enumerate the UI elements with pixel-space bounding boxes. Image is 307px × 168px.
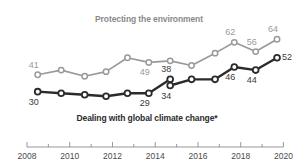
data-point-marker — [35, 89, 41, 95]
data-point-marker — [189, 76, 195, 82]
data-point-marker — [125, 90, 131, 96]
trend-chart: Protecting the environment Dealing with … — [0, 0, 307, 168]
data-point-label: 44 — [247, 76, 257, 85]
x-axis-tick-label: 2014 — [146, 152, 165, 161]
data-point-marker — [58, 90, 64, 96]
series-line — [38, 39, 277, 76]
data-point-label: 30 — [29, 98, 39, 107]
data-point-marker — [82, 74, 87, 79]
data-point-marker — [167, 76, 173, 82]
data-point-label: 34 — [161, 92, 171, 101]
data-point-marker — [232, 40, 237, 45]
chart-plot-area — [0, 0, 307, 168]
data-point-label: 46 — [225, 73, 235, 82]
data-point-label: 38 — [161, 65, 171, 74]
x-axis-tick-label: 2018 — [231, 152, 250, 161]
data-point-marker — [82, 92, 88, 98]
data-point-marker — [125, 55, 130, 60]
series-label-climate: Dealing with global climate change* — [72, 113, 222, 123]
data-point-marker — [146, 60, 151, 65]
data-point-marker — [189, 63, 194, 68]
data-point-marker — [103, 93, 109, 99]
x-axis-tick-label: 2010 — [60, 152, 79, 161]
x-axis — [27, 142, 283, 147]
data-point-label: 49 — [140, 68, 150, 77]
data-point-label: 56 — [247, 38, 257, 47]
data-point-marker — [274, 37, 279, 42]
series-lines — [38, 39, 277, 96]
data-point-marker — [167, 58, 172, 63]
data-point-marker — [146, 90, 152, 96]
data-point-label: 62 — [225, 28, 235, 37]
x-axis-tick-label: 2016 — [188, 152, 207, 161]
data-point-label: 52 — [282, 53, 292, 62]
data-point-marker — [103, 69, 108, 74]
data-point-marker — [58, 67, 63, 72]
data-point-label: 41 — [29, 61, 39, 70]
data-point-label: 64 — [268, 25, 278, 34]
x-axis-tick-label: 2008 — [18, 152, 37, 161]
data-point-marker — [231, 64, 237, 70]
x-axis-tick-label: 2012 — [103, 152, 122, 161]
data-point-marker — [212, 76, 218, 82]
data-point-label: 29 — [140, 99, 150, 108]
data-point-marker — [253, 49, 258, 54]
data-point-marker — [274, 55, 280, 61]
data-point-marker — [167, 83, 173, 89]
data-point-marker — [253, 67, 259, 73]
series-label-environment: Protecting the environment — [74, 14, 224, 24]
x-axis-tick-label: 2020 — [274, 152, 293, 161]
data-point-marker — [212, 50, 217, 55]
series-line — [170, 58, 277, 86]
data-point-marker — [35, 72, 40, 77]
